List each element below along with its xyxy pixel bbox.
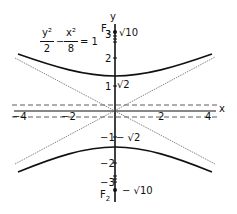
tick-y-m3: −3	[100, 178, 115, 188]
sqrt2-label: √2	[117, 80, 130, 90]
eq-y2: y²	[40, 28, 54, 38]
eq-2: 2	[40, 44, 54, 54]
tick-x-m2: −2	[61, 112, 76, 122]
eq-bar-left	[40, 41, 54, 42]
tick-y-m2: −2	[100, 159, 115, 169]
y-axis-label: y	[110, 12, 116, 22]
tick-x-4: 4	[205, 112, 211, 122]
tick-y-2: 2	[105, 54, 111, 64]
eq-8: 8	[64, 44, 78, 54]
focus-f1	[113, 30, 117, 34]
sqrt10-label: √10	[119, 28, 138, 38]
tick-x-m4: −4	[12, 112, 27, 122]
focus-f2	[113, 188, 117, 192]
eq-x2: x²	[64, 28, 78, 38]
x-axis-label: x	[219, 104, 225, 114]
neg-sqrt10-label: − √10	[122, 186, 153, 196]
tick-y-1: 1	[105, 82, 111, 92]
eq-bar-right	[64, 41, 78, 42]
f2-label: F2	[100, 190, 110, 203]
tick-y-3: 3	[105, 30, 111, 40]
eq-rhs: = 1	[80, 37, 98, 47]
tick-y-m1: −1	[100, 133, 115, 143]
neg-sqrt2-label: − √2	[116, 133, 140, 143]
tick-x-2: 2	[158, 112, 164, 122]
